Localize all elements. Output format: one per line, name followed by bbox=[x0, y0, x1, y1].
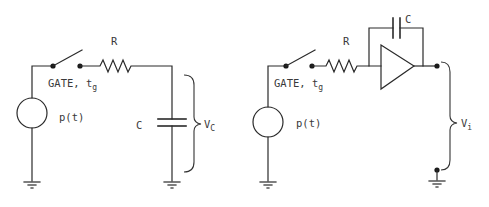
circuit-diagram: R GATE, tg p(t) C VC bbox=[0, 0, 489, 207]
opamp-icon bbox=[381, 45, 414, 89]
voltage-source-icon bbox=[17, 98, 47, 128]
ground-icon bbox=[260, 182, 276, 188]
ground-icon bbox=[429, 181, 445, 187]
wire-feedback-right bbox=[400, 28, 423, 66]
label-gate: GATE, tg bbox=[274, 77, 323, 92]
label-output-voltage: Vi bbox=[461, 117, 472, 132]
voltage-source-icon bbox=[253, 107, 283, 137]
switch-icon bbox=[50, 50, 82, 69]
output-terminal bbox=[434, 63, 439, 68]
label-resistor: R bbox=[343, 35, 350, 47]
label-gate: GATE, tg bbox=[48, 77, 97, 92]
label-source: p(t) bbox=[296, 117, 321, 129]
resistor-icon bbox=[312, 60, 381, 72]
rc-circuit: R GATE, tg p(t) C VC bbox=[17, 35, 215, 188]
brace-icon bbox=[184, 75, 201, 172]
ground-icon bbox=[164, 182, 180, 188]
label-resistor: R bbox=[111, 35, 118, 47]
label-output-voltage: VC bbox=[204, 118, 215, 133]
switch-icon bbox=[283, 50, 315, 69]
brace-icon bbox=[441, 62, 457, 170]
ground-icon bbox=[24, 182, 40, 188]
capacitor-icon bbox=[158, 119, 186, 126]
label-source: p(t) bbox=[59, 111, 84, 123]
capacitor-icon bbox=[393, 18, 400, 38]
opamp-circuit: R C GATE, tg p(t) Vi bbox=[253, 13, 472, 188]
label-capacitor: C bbox=[136, 119, 142, 131]
label-capacitor: C bbox=[405, 13, 411, 25]
